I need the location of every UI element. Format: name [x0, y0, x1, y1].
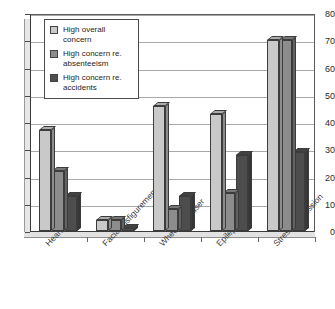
bar-group	[210, 15, 248, 231]
legend-swatch-icon	[50, 50, 58, 58]
bar-side-face	[51, 127, 55, 231]
y-axis-tick-mark	[25, 232, 30, 233]
x-axis-tick-mark	[258, 237, 259, 242]
bar-front-face	[39, 130, 51, 231]
bar-side-face	[279, 37, 283, 231]
bar	[39, 130, 51, 231]
bar	[210, 114, 222, 231]
bar-side-face	[292, 37, 296, 231]
legend-item-label: High concern re. absenteeism	[63, 49, 122, 69]
x-axis-tick-mark	[315, 237, 316, 242]
bar-chart: 01020304050607080 Heart attackFacial dis…	[0, 0, 335, 309]
legend-swatch-icon	[50, 26, 58, 34]
bar-side-face	[77, 192, 81, 231]
legend-item[interactable]: High concern re. absenteeism	[50, 49, 133, 69]
bar	[267, 40, 279, 231]
bar-side-face	[222, 111, 226, 231]
bar-side-face	[305, 149, 309, 231]
bar-side-face	[191, 192, 195, 231]
bar-group	[153, 15, 191, 231]
legend-item-label: High concern re. accidents	[63, 73, 122, 93]
bar-side-face	[178, 206, 182, 231]
bar	[96, 220, 108, 231]
x-axis-tick-mark	[144, 237, 145, 242]
legend-item[interactable]: High overall concern	[50, 25, 133, 45]
legend-item-label: High overall concern	[63, 25, 105, 45]
bar-side-face	[235, 190, 239, 231]
bar-side-face	[248, 152, 252, 231]
legend-item[interactable]: High concern re. accidents	[50, 73, 133, 93]
bar-front-face	[210, 114, 222, 231]
bar-side-face	[64, 168, 68, 231]
bar-front-face	[267, 40, 279, 231]
bar-side-face	[165, 103, 169, 231]
bar-front-face	[96, 220, 108, 231]
bar	[153, 106, 165, 231]
chart-legend: High overall concernHigh concern re. abs…	[44, 19, 139, 99]
bar-front-face	[153, 106, 165, 231]
x-axis-tick-mark	[87, 237, 88, 242]
x-axis-tick-mark	[201, 237, 202, 242]
legend-swatch-icon	[50, 74, 58, 82]
bar-group	[267, 15, 305, 231]
